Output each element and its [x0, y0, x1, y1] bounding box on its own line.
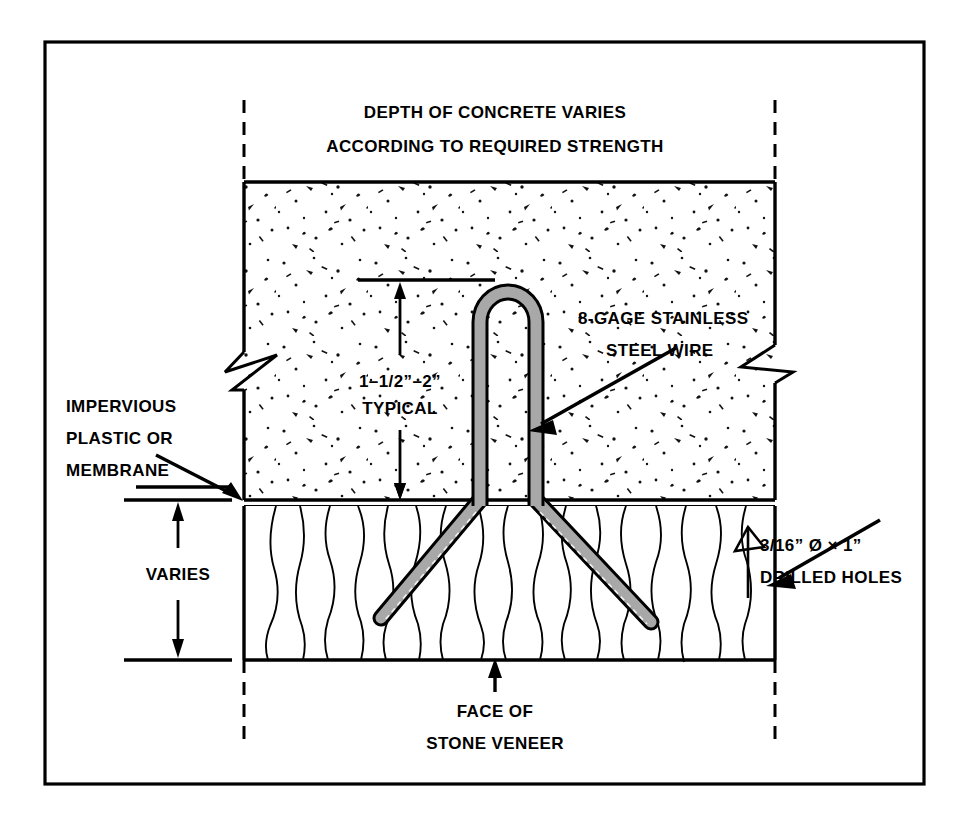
drawing-page: 1–1/2”–2” TYPICAL VARIES — [0, 0, 969, 835]
drilled-holes-label-line-1: 3/16” Ø × 1” — [760, 536, 862, 555]
stone-veneer-anchor-detail: 1–1/2”–2” TYPICAL VARIES — [0, 0, 969, 835]
varies-label: VARIES — [146, 565, 210, 584]
wire-label-line-1: 8-GAGE STAINLESS — [578, 309, 748, 328]
drilled-holes-label-line-2: DRILLED HOLES — [760, 568, 902, 587]
cover-dimension-label-line1: 1–1/2”–2” — [359, 372, 441, 391]
membrane-label-line-1: IMPERVIOUS — [66, 397, 176, 416]
face-label-line-2: STONE VENEER — [426, 734, 564, 753]
face-label-line-1: FACE OF — [457, 702, 533, 721]
cover-dimension-label-line2: TYPICAL — [362, 399, 438, 418]
stone-veneer-section — [244, 506, 775, 662]
wire-label-line-2: STEEL WIRE — [606, 341, 714, 360]
title-line-2: ACCORDING TO REQUIRED STRENGTH — [326, 137, 664, 156]
title-line-1: DEPTH OF CONCRETE VARIES — [364, 103, 626, 122]
membrane-label-line-2: PLASTIC OR — [66, 429, 173, 448]
membrane-label-line-3: MEMBRANE — [66, 461, 169, 480]
